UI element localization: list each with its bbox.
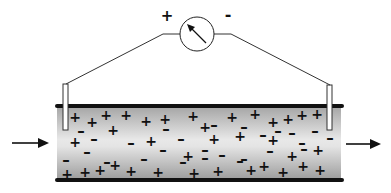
positive-charge: + (312, 142, 324, 158)
positive-charge: + (125, 163, 137, 179)
positive-charge: + (100, 107, 112, 123)
positive-charge: + (258, 158, 270, 174)
negative-charge: – (103, 153, 111, 171)
positive-charge: + (187, 108, 199, 124)
right-electrode (327, 85, 332, 130)
positive-wire (66, 34, 180, 84)
positive-charge: + (314, 162, 326, 178)
negative-charge: – (179, 153, 187, 171)
negative-charge: – (236, 152, 244, 170)
negative-wire (214, 34, 330, 85)
positive-charge: + (286, 148, 298, 164)
negative-charge: – (90, 130, 98, 148)
positive-charge: + (226, 109, 238, 125)
positive-charge: + (277, 164, 289, 180)
negative-charge: – (62, 151, 70, 169)
negative-charge: – (311, 122, 319, 140)
positive-charge: + (249, 106, 261, 122)
negative-charge: – (140, 150, 148, 168)
left-electrode (63, 84, 68, 130)
positive-charge: + (296, 107, 308, 123)
negative-charge: – (300, 140, 308, 158)
negative-charge: – (288, 124, 296, 142)
positive-charge: + (297, 158, 309, 174)
positive-charge: + (145, 133, 157, 149)
positive-charge: + (86, 114, 98, 130)
negative-charge: – (162, 120, 170, 138)
negative-charge: – (201, 149, 209, 167)
positive-charge: + (120, 107, 132, 123)
positive-charge: + (140, 113, 152, 129)
positive-charge: + (311, 106, 323, 122)
negative-charge: – (274, 122, 282, 140)
negative-charge: – (210, 116, 218, 134)
inlet-flow-arrow-icon (12, 138, 49, 148)
negative-charge: – (77, 122, 85, 140)
positive-charge: + (152, 164, 164, 180)
positive-charge: + (109, 157, 121, 173)
negative-charge: – (159, 141, 167, 159)
positive-charge: + (188, 165, 200, 181)
positive-charge: + (212, 163, 224, 179)
meter-negative-label: - (225, 5, 232, 24)
positive-charge: + (79, 164, 91, 180)
meter-positive-label: + (161, 7, 174, 25)
negative-charge: – (127, 134, 135, 152)
negative-charge: – (326, 129, 334, 147)
negative-charge: – (266, 142, 274, 160)
outlet-flow-arrow-icon (346, 139, 381, 149)
positive-charge: + (107, 122, 119, 138)
negative-charge: – (218, 146, 226, 164)
negative-charge: – (240, 118, 248, 136)
voltmeter: + - (161, 5, 232, 51)
streaming-potential-diagram: ++++++++++++++++++++++++++++++++++++––––… (0, 0, 391, 193)
negative-charge: – (83, 143, 91, 161)
negative-charge: – (177, 130, 185, 148)
